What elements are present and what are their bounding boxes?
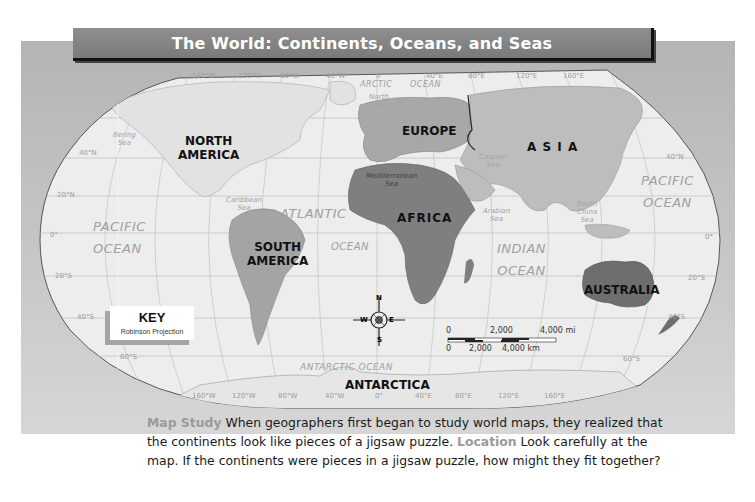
lon-label-top: 120°W: [238, 72, 262, 80]
lat-label-left: 0°: [50, 231, 58, 239]
map-key: KEY Robinson Projection: [110, 306, 194, 340]
lon-label-top: 40°W: [326, 72, 345, 80]
label-pacific-ocean-east: PACIFIC OCEAN: [641, 170, 694, 214]
scale-mi-4000: 4,000 mi: [540, 326, 575, 335]
label-atlantic: ATLANTIC: [280, 206, 347, 221]
label-bering-sea: BeringSea: [113, 131, 136, 147]
scale-bar: [448, 338, 556, 342]
label-europe: EUROPE: [402, 124, 456, 138]
lon-label-top: 80°W: [280, 72, 299, 80]
compass-south: S: [377, 336, 382, 344]
key-title: KEY: [139, 311, 166, 325]
lon-label-top: 0°: [376, 72, 384, 80]
label-arctic: ARCTIC: [360, 80, 392, 89]
label-indian-ocean: INDIAN OCEAN: [497, 238, 546, 282]
map-study-caption: Map Study When geographers first began t…: [147, 413, 667, 470]
lon-label-top: 160°E: [563, 72, 584, 80]
label-australia: AUSTRALIA: [584, 283, 659, 297]
caption-label-location: Location: [457, 434, 517, 449]
label-antarctic-ocean: ANTARCTIC OCEAN: [300, 362, 393, 372]
lat-label-right: 20°S: [688, 274, 705, 282]
lon-label-bottom: 0°: [375, 392, 383, 400]
map-title: The World: Continents, Oceans, and Seas: [172, 34, 552, 53]
scale-mi-2000: 2,000: [490, 326, 513, 335]
lon-label-top: 120°E: [516, 72, 537, 80]
label-black-sea: Black Sea: [394, 137, 428, 145]
scale-mi-0: 0: [446, 326, 451, 335]
label-arctic-ocean: OCEAN: [410, 80, 441, 89]
label-north-america: NORTH AMERICA: [178, 134, 239, 162]
label-north-sea: NorthSea: [369, 93, 389, 109]
scale-km-0: 0: [446, 344, 451, 353]
lat-label-right: 0°: [705, 233, 713, 241]
label-caribbean-sea: CaribbeanSea: [226, 196, 262, 212]
lat-label-left: 40°S: [77, 313, 94, 321]
lat-label-left: 20°N: [57, 191, 75, 199]
lat-label-left: 60°S: [120, 353, 137, 361]
label-asia: A S I A: [527, 140, 578, 154]
lon-label-top: 160°W: [192, 72, 216, 80]
label-south-china-sea: SouthChinaSea: [577, 200, 597, 224]
lat-label-left: 40°N: [79, 149, 97, 157]
lat-label-right: 60°S: [623, 355, 640, 363]
caption-label-map-study: Map Study: [147, 415, 222, 430]
map-title-bar: The World: Continents, Oceans, and Seas: [73, 28, 654, 61]
compass-east: E: [389, 316, 394, 324]
lon-label-bottom: 80°W: [278, 392, 297, 400]
lon-label-top: 40°E: [426, 72, 443, 80]
lat-label-right: 40°N: [666, 153, 684, 161]
scale-km-4000: 4,000 km: [502, 344, 540, 353]
key-projection: Robinson Projection: [121, 328, 184, 335]
label-arabian-sea: ArabianSea: [483, 207, 510, 223]
lon-label-top: 80°E: [468, 72, 485, 80]
lat-label-right: 40°S: [668, 313, 685, 321]
compass-west: W: [360, 316, 368, 324]
lon-label-bottom: 80°E: [455, 392, 472, 400]
label-south-america: SOUTH AMERICA: [247, 240, 308, 268]
label-mediterranean-sea: MediterraneanSea: [366, 172, 417, 188]
label-caspian-sea: CaspianSea: [479, 153, 507, 169]
lon-label-bottom: 160°E: [544, 392, 565, 400]
lon-label-bottom: 120°E: [498, 392, 519, 400]
scale-km-2000: 2,000: [469, 344, 492, 353]
compass-north: N: [376, 294, 382, 302]
lon-label-bottom: 120°W: [232, 392, 256, 400]
lon-label-bottom: 40°W: [325, 392, 344, 400]
label-atlantic-ocean: OCEAN: [331, 241, 369, 252]
lon-label-bottom: 160°W: [192, 392, 216, 400]
label-africa: AFRICA: [397, 211, 452, 225]
lat-label-left: 20°S: [55, 272, 72, 280]
lon-label-bottom: 40°E: [415, 392, 432, 400]
label-antarctica: ANTARCTICA: [345, 378, 430, 392]
label-pacific-ocean-west: PACIFIC OCEAN: [93, 216, 146, 260]
